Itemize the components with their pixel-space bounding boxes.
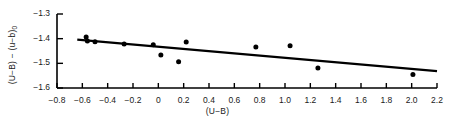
data-point — [93, 39, 98, 44]
data-point — [410, 72, 415, 77]
fitted-trend-line — [77, 40, 437, 72]
plot-canvas — [0, 0, 453, 125]
data-point — [122, 42, 127, 47]
data-point — [85, 38, 90, 43]
data-point — [176, 59, 181, 64]
data-point — [288, 43, 293, 48]
data-point — [184, 40, 189, 45]
scatter-plot-figure: (U−B) − (u−b)0 −1.3−1.4−1.5−1.6 −0.8−0.6… — [0, 0, 453, 125]
data-point — [315, 66, 320, 71]
data-point — [158, 52, 163, 57]
data-point — [253, 45, 258, 50]
data-point — [151, 42, 156, 47]
